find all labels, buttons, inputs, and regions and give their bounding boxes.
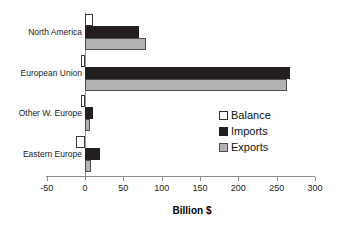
bar-exports-european-union bbox=[85, 79, 287, 91]
x-tick-label-250: 250 bbox=[257, 183, 297, 193]
bar-balance-other-w-europe bbox=[81, 95, 85, 107]
legend-label-imports: Imports bbox=[231, 125, 268, 137]
bar-balance-eastern-europe bbox=[76, 136, 85, 148]
legend-label-balance: Balance bbox=[231, 109, 271, 121]
x-tick-100 bbox=[162, 177, 163, 181]
x-axis-title: Billion $ bbox=[0, 205, 342, 216]
bar-exports-other-w-europe bbox=[85, 119, 90, 131]
legend-label-exports: Exports bbox=[231, 141, 268, 153]
bar-exports-eastern-europe bbox=[85, 160, 91, 172]
x-axis-line bbox=[46, 176, 315, 177]
x-tick-label-150: 150 bbox=[180, 183, 220, 193]
x-tick-50 bbox=[123, 177, 124, 181]
legend-item-balance[interactable]: Balance bbox=[219, 107, 271, 123]
x-tick-label-0: 0 bbox=[65, 183, 105, 193]
category-label-other-w-europe: Other W. Europe bbox=[0, 108, 82, 118]
chart-container: -50050100150200250300 North AmericaEurop… bbox=[0, 0, 342, 230]
x-tick--50 bbox=[47, 177, 48, 181]
bar-exports-north-america bbox=[85, 38, 146, 50]
x-tick-label-200: 200 bbox=[218, 183, 258, 193]
x-tick-label-50: 50 bbox=[103, 183, 143, 193]
legend-swatch-balance-icon bbox=[219, 111, 228, 120]
legend-swatch-exports-icon bbox=[219, 143, 228, 152]
x-axis-title-text: Billion $ bbox=[173, 205, 212, 216]
x-tick-0 bbox=[85, 171, 86, 180]
bar-imports-european-union bbox=[85, 67, 290, 79]
x-tick-label--50: -50 bbox=[27, 183, 67, 193]
legend-item-exports[interactable]: Exports bbox=[219, 139, 271, 155]
bar-balance-north-america bbox=[85, 14, 93, 26]
x-tick-250 bbox=[277, 177, 278, 181]
x-tick-label-100: 100 bbox=[142, 183, 182, 193]
bar-imports-other-w-europe bbox=[85, 107, 93, 119]
category-label-north-america: North America bbox=[0, 27, 82, 37]
legend-item-imports[interactable]: Imports bbox=[219, 123, 271, 139]
category-label-eastern-europe: Eastern Europe bbox=[0, 149, 82, 159]
legend-swatch-imports-icon bbox=[219, 127, 228, 136]
chart-legend: BalanceImportsExports bbox=[219, 107, 271, 155]
bar-imports-eastern-europe bbox=[85, 148, 100, 160]
x-tick-300 bbox=[315, 177, 316, 181]
x-tick-200 bbox=[238, 177, 239, 181]
category-label-european-union: European Union bbox=[0, 68, 82, 78]
plot-area: -50050100150200250300 North AmericaEurop… bbox=[0, 0, 342, 230]
x-tick-label-300: 300 bbox=[295, 183, 335, 193]
x-tick-150 bbox=[200, 177, 201, 181]
bar-imports-north-america bbox=[85, 26, 139, 38]
bar-balance-european-union bbox=[81, 55, 85, 67]
